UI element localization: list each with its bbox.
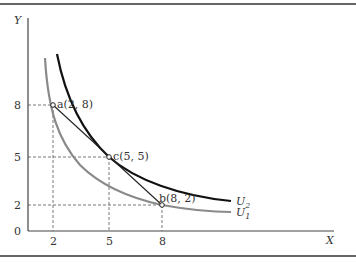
x-tick-5: 5 (106, 235, 113, 248)
point-c-label: c(5, 5) (113, 150, 149, 163)
indifference-curve-u2 (57, 54, 231, 201)
y-tick-5: 5 (14, 151, 21, 164)
origin-label: 0 (14, 225, 21, 238)
y-axis-label: Y (14, 14, 23, 27)
diagram-frame: Y X 0 8 5 2 2 5 8 a(2, 8) c(5, 5) b(8, 2… (0, 0, 356, 262)
x-tick-8: 8 (159, 235, 166, 248)
x-axis-label: X (325, 234, 335, 247)
point-a-label: a(2, 8) (57, 98, 93, 111)
point-a (51, 103, 56, 108)
indifference-curve-u1 (45, 58, 231, 212)
point-b-label: b(8, 2) (159, 192, 196, 205)
guide-lines (28, 105, 162, 231)
indifference-diagram: Y X 0 8 5 2 2 5 8 a(2, 8) c(5, 5) b(8, 2… (0, 0, 356, 262)
point-c (107, 155, 112, 160)
y-tick-8: 8 (14, 99, 21, 112)
x-tick-2: 2 (50, 235, 57, 248)
y-tick-2: 2 (14, 199, 21, 212)
